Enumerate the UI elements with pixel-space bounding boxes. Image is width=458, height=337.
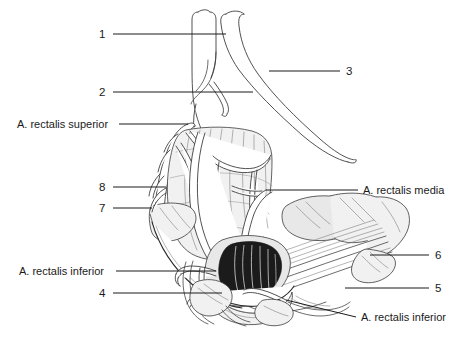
label-1: 1	[99, 28, 105, 40]
label-5: 5	[435, 282, 441, 294]
label-3: 3	[346, 65, 352, 77]
rectum-arterial-supply-illustration: 1 2 A. rectalis superior 8 7 A. rectalis…	[0, 0, 458, 337]
label-a-rectalis-media: A. rectalis media	[363, 184, 445, 196]
label-2: 2	[99, 86, 105, 98]
label-7: 7	[99, 202, 105, 214]
label-a-rectalis-superior: A. rectalis superior	[17, 118, 108, 130]
anatomical-figure: 1 2 A. rectalis superior 8 7 A. rectalis…	[0, 0, 458, 337]
label-6: 6	[435, 249, 441, 261]
label-8: 8	[99, 181, 105, 193]
label-a-rectalis-inferior-left: A. rectalis inferior	[19, 265, 104, 277]
label-a-rectalis-inferior-right: A. rectalis inferior	[361, 311, 446, 323]
label-4: 4	[99, 287, 106, 299]
